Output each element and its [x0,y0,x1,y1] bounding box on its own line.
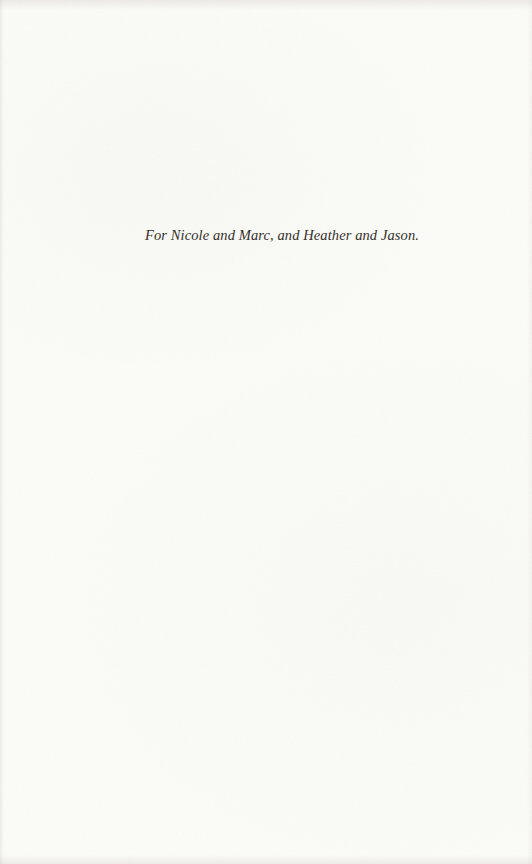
book-page: For Nicole and Marc, and Heather and Jas… [0,0,532,864]
scan-shadow-right [527,0,532,864]
paper-texture [0,0,532,864]
scan-shadow-top [0,0,532,10]
dedication-text: For Nicole and Marc, and Heather and Jas… [145,226,405,244]
scan-shadow-bottom [0,855,532,864]
scan-shadow-left [0,0,4,864]
